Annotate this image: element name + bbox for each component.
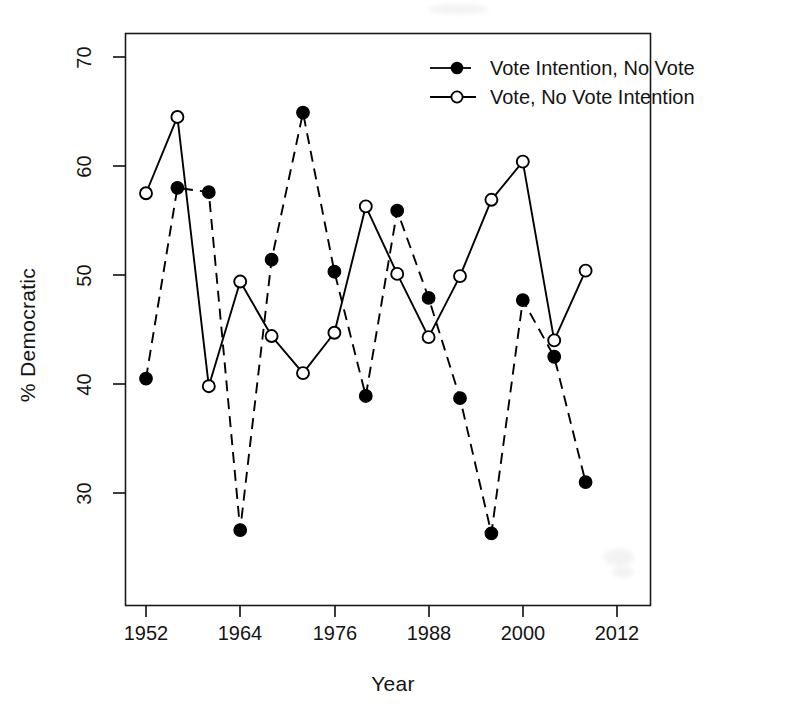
data-point	[422, 292, 434, 304]
legend-key-vote-no-vote-intention	[430, 91, 476, 102]
data-point	[297, 106, 309, 118]
data-point	[360, 200, 372, 212]
data-point	[171, 182, 183, 194]
chart-figure: 30 40 50 60 70 1952 1964 1976 1988 2000 …	[0, 0, 786, 723]
x-tick-label-2000: 2000	[483, 622, 563, 645]
y-tick-label-40: 40	[73, 365, 96, 405]
data-point	[360, 390, 372, 402]
data-point	[454, 270, 466, 282]
y-axis-ticks	[113, 57, 125, 493]
data-point	[548, 351, 560, 363]
series-2	[140, 111, 592, 392]
data-point	[265, 254, 277, 266]
data-point	[328, 327, 340, 339]
data-point	[328, 266, 340, 278]
x-tick-label-1952: 1952	[106, 622, 186, 645]
legend-label-vote-no-vote-intention: Vote, No Vote Intention	[490, 86, 695, 109]
x-axis-title: Year	[0, 672, 786, 696]
x-tick-label-1988: 1988	[389, 622, 469, 645]
data-point	[548, 334, 560, 346]
data-point	[485, 194, 497, 206]
data-point	[423, 331, 435, 343]
legend-keys	[430, 62, 476, 102]
data-point	[517, 156, 529, 168]
data-point	[234, 524, 246, 536]
y-tick-label-70: 70	[73, 38, 96, 78]
data-point	[485, 527, 497, 539]
y-axis-title-wrap: % Democratic	[8, 235, 42, 435]
data-point	[517, 294, 529, 306]
x-tick-label-1964: 1964	[200, 622, 280, 645]
data-point	[391, 268, 403, 280]
data-point	[203, 186, 215, 198]
y-axis-title: % Democratic	[16, 245, 40, 425]
axes-frame	[126, 34, 651, 606]
x-tick-label-2012: 2012	[577, 622, 657, 645]
y-tick-label-50: 50	[73, 256, 96, 296]
legend-key-vote-intention-no-vote	[430, 62, 476, 73]
data-point	[140, 372, 152, 384]
data-point	[579, 476, 591, 488]
data-point	[297, 367, 309, 379]
data-point	[580, 265, 592, 277]
data-point	[266, 330, 278, 342]
x-axis-ticks	[146, 605, 617, 617]
legend-label-vote-intention-no-vote: Vote Intention, No Vote	[490, 57, 695, 80]
data-point	[203, 380, 215, 392]
x-tick-label-1976: 1976	[295, 622, 375, 645]
data-point	[171, 111, 183, 123]
data-point	[454, 392, 466, 404]
series-line	[146, 113, 586, 534]
y-tick-label-30: 30	[73, 474, 96, 514]
y-tick-label-60: 60	[73, 147, 96, 187]
data-point	[391, 204, 403, 216]
data-point	[140, 187, 152, 199]
data-point	[234, 276, 246, 288]
data-series-layer	[140, 106, 592, 539]
